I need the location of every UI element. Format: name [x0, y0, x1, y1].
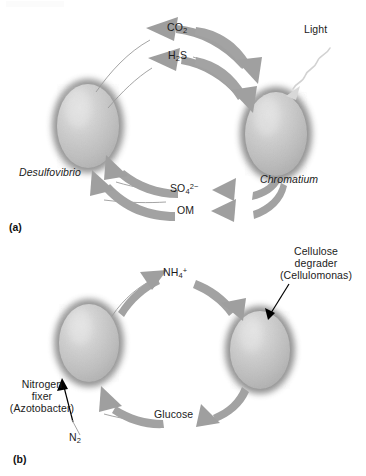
- label-h2s: H2S: [168, 49, 187, 65]
- nitrogen-fixer-line3: (Azotobacter): [10, 402, 74, 414]
- light-ray: [286, 48, 330, 100]
- label-om: OM: [177, 204, 194, 216]
- label-co2: CO2: [167, 21, 187, 37]
- cell-cellulomonas: [225, 306, 295, 394]
- panel-b-tag: (b): [13, 453, 26, 465]
- label-n2: N2: [69, 431, 81, 447]
- n2-subscript: 2: [77, 436, 81, 445]
- panel-a-tag: (a): [9, 221, 22, 233]
- label-nh4: NH4+: [163, 265, 187, 282]
- cell-azotobacter: [54, 299, 124, 387]
- cellulose-degrader-line3: (Cellulomonas): [280, 269, 352, 281]
- cell-desulfovibrio: [52, 79, 124, 173]
- panel-b-nitrogen-cycle: NH4+ Glucose Cellulose degrader (Cellulo…: [0, 240, 366, 476]
- nitrogen-fixer-line1: Nitrogen: [22, 378, 63, 390]
- arrow-co2: [146, 17, 262, 84]
- co2-subscript: 2: [183, 26, 187, 35]
- label-glucose: Glucose: [154, 408, 193, 420]
- label-nitrogen-fixer: Nitrogen fixer (Azotobacter): [3, 378, 81, 414]
- label-so4: SO42−: [170, 181, 198, 198]
- nh4-superscript: +: [183, 266, 187, 275]
- cellulose-degrader-line2: degrader: [295, 257, 338, 269]
- cellulose-degrader-line1: Cellulose: [294, 245, 338, 257]
- label-desulfovibrio: Desulfovibrio: [19, 166, 81, 178]
- so4-superscript: 2−: [190, 182, 199, 191]
- label-cellulose-degrader: Cellulose degrader (Cellulomonas): [270, 245, 362, 281]
- nitrogen-fixer-line2: fixer: [32, 390, 52, 402]
- label-light: Light: [304, 23, 327, 35]
- panel-a-sulfur-cycle: CO2 H2S SO42− OM Desulfovibrio Chromatiu…: [0, 0, 366, 240]
- h2s-subscript: 2: [176, 54, 180, 63]
- label-chromatium: Chromatium: [260, 173, 318, 185]
- figure-syntrophy-diagrams: CO2 H2S SO42− OM Desulfovibrio Chromatiu…: [0, 0, 366, 476]
